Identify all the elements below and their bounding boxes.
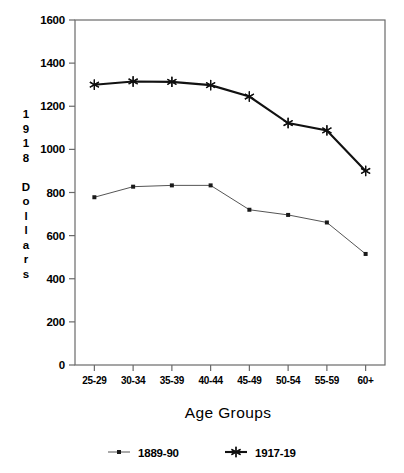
y-tick-label: 800 xyxy=(46,187,65,199)
y-tick-label: 600 xyxy=(46,230,65,242)
dot-marker xyxy=(131,185,135,189)
x-axis-title: Age Groups xyxy=(185,404,272,421)
dot-marker xyxy=(209,183,213,187)
x-tick-label: 50-54 xyxy=(276,375,301,386)
plot-area-border xyxy=(75,20,385,365)
dot-marker xyxy=(364,252,368,256)
legend-label: 1889-90 xyxy=(138,447,179,459)
y-axis-title-char: 8 xyxy=(23,152,30,164)
y-tick-label: 1200 xyxy=(40,100,65,112)
y-axis-title-char: s xyxy=(23,268,29,280)
x-tick-label: 60+ xyxy=(358,375,375,386)
y-tick-label: 1600 xyxy=(40,14,65,26)
y-axis-title: 1918Dollars xyxy=(22,108,30,280)
y-axis-title-char: 1 xyxy=(23,137,30,149)
y-tick-label: 1400 xyxy=(40,57,65,69)
dot-marker xyxy=(117,450,121,454)
x-tick-label: 55-59 xyxy=(315,375,340,386)
dot-marker xyxy=(286,213,290,217)
x-tick-label: 45-49 xyxy=(237,375,262,386)
y-tick-label: 0 xyxy=(59,359,65,371)
chart-legend: 1889-901917-19 xyxy=(108,447,296,459)
y-axis-title-char: l xyxy=(24,224,27,236)
dot-marker xyxy=(325,220,329,224)
x-tick-label: 35-39 xyxy=(160,375,185,386)
y-axis-title-char: 9 xyxy=(23,123,29,135)
y-axis-title-char: 1 xyxy=(23,108,30,120)
x-tick-label: 30-34 xyxy=(121,375,146,386)
legend-label: 1917-19 xyxy=(255,447,296,459)
dot-marker xyxy=(247,208,251,212)
y-tick-label: 1000 xyxy=(40,143,65,155)
y-axis-title-char: o xyxy=(22,195,29,207)
dot-marker xyxy=(170,183,174,187)
y-axis-title-char: a xyxy=(23,239,30,251)
y-tick-label: 400 xyxy=(46,273,65,285)
x-tick-label: 40-44 xyxy=(199,375,224,386)
x-axis-ticks: 25-2930-3435-3940-4445-4950-5455-5960+ xyxy=(82,365,374,386)
y-axis-title-char: l xyxy=(24,210,27,222)
plot-frame xyxy=(75,20,385,365)
dot-marker xyxy=(92,195,96,199)
y-axis-title-char: r xyxy=(24,253,29,265)
chart-container: 02004006008001000120014001600 25-2930-34… xyxy=(0,0,404,473)
y-tick-label: 200 xyxy=(46,316,65,328)
y-axis-title-char: D xyxy=(22,181,30,193)
x-tick-label: 25-29 xyxy=(82,375,107,386)
y-axis-ticks: 02004006008001000120014001600 xyxy=(40,14,75,371)
line-chart: 02004006008001000120014001600 25-2930-34… xyxy=(0,0,404,473)
